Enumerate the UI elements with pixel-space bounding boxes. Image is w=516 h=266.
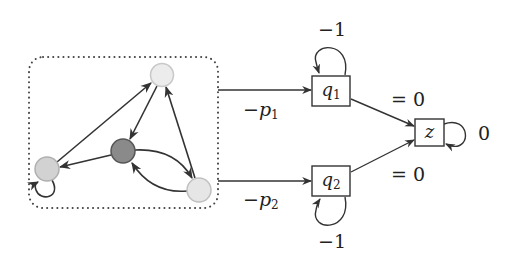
edge-label-q1-to-z: = 0 <box>391 90 425 109</box>
node-bottom-right <box>187 178 211 202</box>
edge-q1-self-loop <box>315 48 345 75</box>
edge-label-q2-to-z: = 0 <box>391 165 425 184</box>
edge-z-self-loop <box>444 123 465 147</box>
edge-top-to-middle <box>130 86 157 139</box>
node-left <box>35 157 59 181</box>
edge-bottomright-to-middle <box>132 163 187 191</box>
edge-label-p1: −p1 <box>243 100 279 121</box>
state-q1-var: q <box>321 79 333 100</box>
edge-middle-to-left <box>60 155 111 167</box>
q2-self-loop-label: −1 <box>318 232 346 251</box>
edge-label-p2: −p2 <box>243 190 279 211</box>
state-z-var: z <box>425 121 434 142</box>
edge-left-self-loop <box>35 180 54 197</box>
state-q1-label: q1 <box>312 81 350 101</box>
q1-self-loop-label: −1 <box>318 20 346 39</box>
state-q1-sub: 1 <box>333 88 341 102</box>
diagram: q1 q2 z −1 −1 0 −p1 −p2 = 0 = 0 <box>0 0 516 266</box>
state-q2-sub: 2 <box>333 178 341 192</box>
state-z-label: z <box>415 123 444 141</box>
node-top <box>151 64 174 87</box>
edge-label-p2-var: p <box>259 188 271 210</box>
edge-q2-self-loop <box>315 197 345 225</box>
edge-label-p1-var: p <box>259 98 271 120</box>
state-q2-label: q2 <box>312 171 350 191</box>
edge-label-p1-sub: 1 <box>271 108 279 122</box>
state-q2-var: q <box>321 169 333 190</box>
node-middle <box>111 139 135 163</box>
edge-middle-to-bottomright <box>135 150 192 178</box>
z-self-loop-label: 0 <box>478 124 490 143</box>
cluster-edges <box>35 83 195 197</box>
edge-label-p2-sign: − <box>243 188 259 210</box>
edge-label-p1-sign: − <box>243 98 259 120</box>
edge-label-p2-sub: 2 <box>271 198 279 212</box>
